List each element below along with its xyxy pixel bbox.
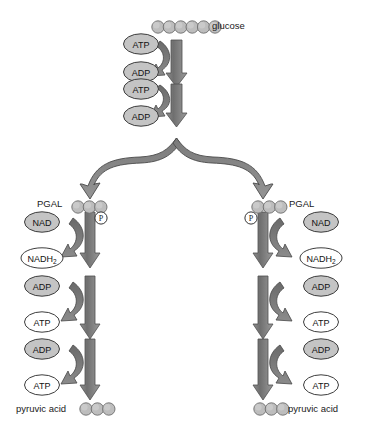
right-step-2-atp-label: ATP (313, 318, 330, 328)
svg-text:P: P (99, 214, 104, 223)
glycolysis-diagram: ATPADPATPADP NADNADH2ADPATPADPATP P NADN… (0, 0, 370, 440)
left-pgal-carbon (95, 201, 107, 213)
top-step-1-adp-label: ADP (132, 68, 151, 78)
right-pyruvic-acid-label: pyruvic acid (288, 404, 338, 414)
right-step-3-adp: ADP (304, 339, 339, 359)
top-step-2-adp: ADP (124, 106, 159, 126)
right-pyruvate-carbon (265, 403, 277, 415)
right-branch-molecule-group: NADNADH2ADPATPADPATP (300, 212, 342, 395)
left-pyruvate-carbon (103, 403, 115, 415)
top-step-1-atp-label: ATP (133, 40, 150, 50)
right-step-3-adp-label: ADP (312, 345, 331, 355)
left-step-1-nadh: NADH2 (21, 248, 63, 268)
glucose-carbon (197, 21, 209, 33)
top-step-1-main-arrow (166, 40, 187, 87)
left-pyruvate-carbon (80, 403, 92, 415)
right-step-2-atp: ATP (304, 312, 339, 332)
top-step-2-atp: ATP (124, 79, 159, 99)
right-step-1-nadh-label: NADH2 (306, 254, 336, 265)
left-step-2-curved-arrow (61, 282, 83, 321)
right-step-2-adp-label: ADP (312, 282, 331, 292)
top-step-2-main-arrow (166, 84, 187, 127)
left-step-1-curved-arrow (61, 218, 83, 257)
right-pgal-carbon (275, 201, 287, 213)
left-step-2-adp-label: ADP (33, 282, 52, 292)
right-step-3-atp-label: ATP (313, 381, 330, 391)
right-step-2-adp: ADP (304, 276, 339, 296)
left-step-2-atp-label: ATP (34, 318, 51, 328)
right-pgal-phosphate: P (245, 212, 257, 224)
left-step-1-nad-label: NAD (32, 218, 52, 228)
left-step-2-atp: ATP (25, 312, 60, 332)
right-pgal-carbon (252, 201, 264, 213)
left-pgal-phosphate: P (95, 212, 107, 224)
left-step-2-main-arrow (80, 276, 100, 339)
left-step-3-main-arrow (80, 339, 100, 400)
left-step-3-atp: ATP (25, 375, 60, 395)
right-step-3-main-arrow (253, 339, 273, 400)
right-pyruvate-carbon-chain (254, 403, 289, 415)
right-step-3-curved-arrow (270, 345, 292, 384)
left-pyruvate-carbon-chain (80, 403, 115, 415)
right-step-1-nad: NAD (304, 212, 339, 232)
right-step-1-curved-arrow (270, 218, 292, 257)
right-pyruvate-carbon (254, 403, 266, 415)
left-pgal-carbon (72, 201, 84, 213)
left-pyruvic-acid-label: pyruvic acid (16, 404, 66, 414)
right-pgal-carbon (263, 201, 275, 213)
left-step-3-curved-arrow (61, 345, 83, 384)
right-step-1-nadh: NADH2 (300, 248, 342, 268)
left-step-3-atp-label: ATP (34, 381, 51, 391)
top-step-1-atp: ATP (124, 34, 159, 54)
glucose-carbon (186, 21, 198, 33)
right-step-2-main-arrow (253, 276, 273, 339)
glucose-carbon-chain (152, 21, 221, 33)
left-step-1-nadh-label: NADH2 (27, 254, 57, 265)
left-step-3-adp: ADP (25, 339, 60, 359)
glucose-carbon (163, 21, 175, 33)
left-pgal-carbon (83, 201, 95, 213)
top-step-2-atp-label: ATP (133, 85, 150, 95)
glucose-carbon (175, 21, 187, 33)
right-step-2-curved-arrow (270, 282, 292, 321)
glucose-carbon (152, 21, 164, 33)
left-step-2-adp: ADP (25, 276, 60, 296)
diagram-graphics: ATPADPATPADP NADNADH2ADPATPADPATP P NADN… (0, 0, 370, 440)
left-pyruvate-carbon (91, 403, 103, 415)
left-pgal-label: PGAL (37, 199, 62, 209)
right-step-1-nad-label: NAD (311, 218, 331, 228)
left-step-3-adp-label: ADP (33, 345, 52, 355)
branch-split-arrow (80, 138, 273, 199)
left-branch-molecule-group: NADNADH2ADPATPADPATP (21, 212, 63, 395)
top-step-2-adp-label: ADP (132, 112, 151, 122)
left-step-1-nad: NAD (25, 212, 60, 232)
right-step-3-atp: ATP (304, 375, 339, 395)
glucose-label: glucose (212, 21, 245, 31)
top-molecule-group: ATPADPATPADP (124, 34, 159, 126)
svg-text:P: P (249, 214, 254, 223)
right-pgal-label: PGAL (289, 199, 314, 209)
